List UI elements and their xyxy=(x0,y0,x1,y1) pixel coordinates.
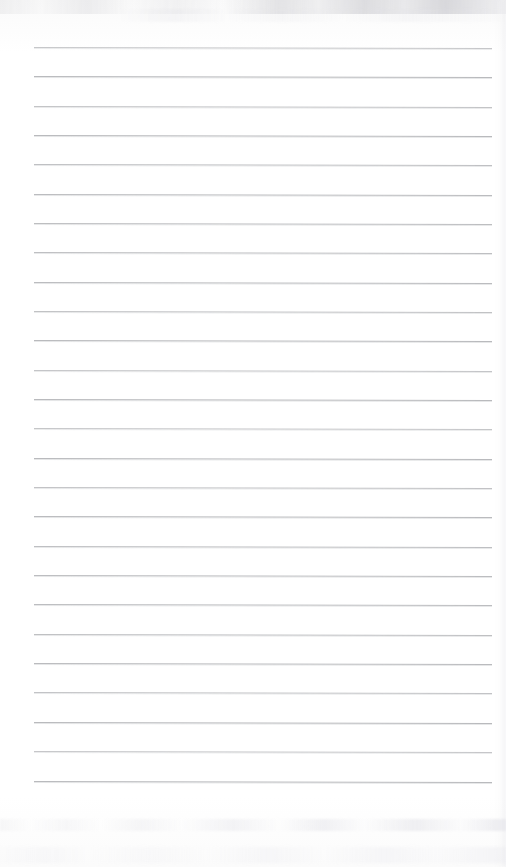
ruled-line xyxy=(34,604,492,606)
ruled-lines-layer xyxy=(0,0,506,867)
ruled-line xyxy=(34,722,492,724)
ruled-line xyxy=(34,370,492,372)
ruled-line xyxy=(34,428,492,430)
ruled-line xyxy=(34,194,492,196)
ruled-line xyxy=(34,340,492,342)
ruled-line xyxy=(34,634,492,636)
ruled-line xyxy=(34,311,492,313)
ruled-line xyxy=(34,692,492,694)
ruled-line xyxy=(34,781,492,783)
ruled-line xyxy=(34,516,492,518)
ruled-line xyxy=(34,223,492,225)
ruled-line xyxy=(34,399,492,401)
ruled-line xyxy=(34,458,492,460)
ruled-line xyxy=(34,546,492,548)
ruled-line xyxy=(34,282,492,284)
page-edge-shading-right xyxy=(496,0,506,867)
ruled-line xyxy=(34,76,492,78)
notebook-page xyxy=(0,0,506,867)
ruled-line xyxy=(34,575,492,577)
ruled-line xyxy=(34,164,492,166)
ruled-line xyxy=(34,751,492,753)
ruled-line xyxy=(34,487,492,489)
ruled-line xyxy=(34,47,492,49)
scan-smudge-bottom-secondary-artifact xyxy=(0,847,506,863)
ruled-line xyxy=(34,663,492,665)
ruled-line xyxy=(34,252,492,254)
ruled-line xyxy=(34,106,492,108)
ruled-line xyxy=(34,135,492,137)
scan-smudge-bottom-artifact xyxy=(0,819,506,831)
